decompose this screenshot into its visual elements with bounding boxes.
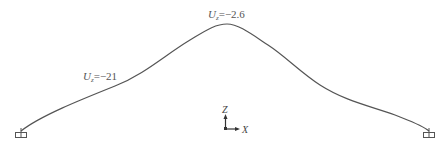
right-support-icon [424,128,435,138]
x-axis-label: X [241,124,249,135]
z-axis-label: Z [222,104,228,115]
peak-displacement-label: Uz=−2.6 [208,8,245,22]
left-displacement-label: Uz=−21 [83,70,117,84]
axis-triad-icon: Z X [222,104,249,135]
left-support-icon [16,128,27,138]
deformed-shape-diagram: Uz=−2.6 Uz=−21 Z X [0,0,447,153]
